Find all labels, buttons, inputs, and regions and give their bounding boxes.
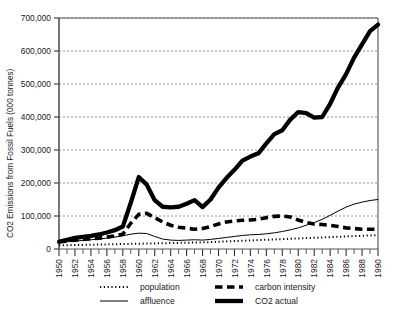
x-tick-label: 1978: [278, 259, 288, 278]
x-tick-label: 1960: [134, 259, 144, 278]
x-tick-label: 1954: [86, 259, 96, 278]
y-tick-label: 0: [46, 244, 51, 254]
y-axis-title: CO2 Emissions from Fossil Fuels (000 ton…: [6, 68, 15, 238]
y-tick-label: 500,000: [21, 79, 52, 89]
x-tick-label: 1964: [166, 259, 176, 278]
y-tick-label: 400,000: [21, 112, 52, 122]
x-tick-label: 1956: [102, 259, 112, 278]
x-tick-label: 1980: [293, 259, 303, 278]
chart-figure: CO2 Emissions from Fossil Fuels (000 ton…: [0, 0, 393, 316]
x-tick-label: 1982: [309, 259, 319, 278]
x-tick-label: 1984: [325, 259, 335, 278]
x-tick-label: 1976: [262, 259, 272, 278]
x-tick-label: 1974: [246, 259, 256, 278]
y-tick-label: 300,000: [21, 145, 52, 155]
y-tick-label: 600,000: [21, 46, 52, 56]
legend-label: CO2 actual: [255, 296, 298, 306]
y-tick-label: 200,000: [21, 178, 52, 188]
x-tick-label: 1970: [214, 259, 224, 278]
legend-label: affluence: [140, 296, 175, 306]
co2-emissions-line-chart: CO2 Emissions from Fossil Fuels (000 ton…: [0, 0, 393, 316]
x-tick-label: 1966: [182, 259, 192, 278]
legend-label: population: [140, 282, 180, 292]
x-tick-label: 1986: [341, 259, 351, 278]
x-tick-label: 1962: [150, 259, 160, 278]
x-tick-label: 1972: [230, 259, 240, 278]
x-tick-label: 1990: [373, 259, 383, 278]
x-tick-label: 1952: [70, 259, 80, 278]
legend-label: carbon intensity: [255, 282, 316, 292]
x-tick-label: 1988: [357, 259, 367, 278]
x-tick-label: 1968: [198, 259, 208, 278]
y-tick-label: 100,000: [21, 211, 52, 221]
x-tick-label: 1958: [118, 259, 128, 278]
y-tick-label: 700,000: [21, 13, 52, 23]
x-tick-label: 1950: [54, 259, 64, 278]
